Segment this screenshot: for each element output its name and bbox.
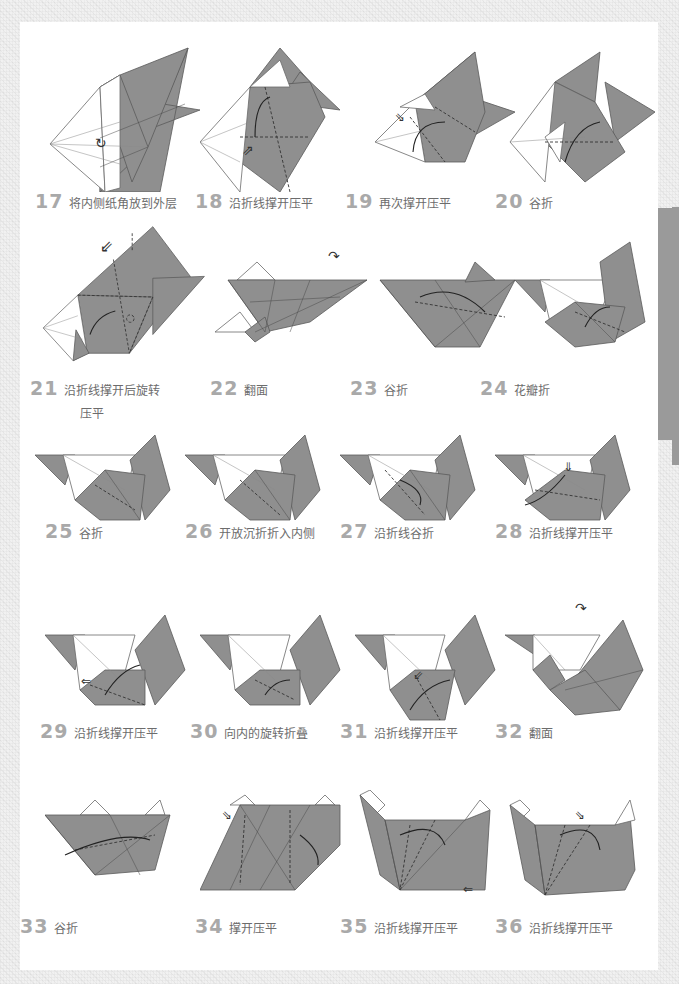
push-arrow-icon: ⇘ — [395, 110, 405, 124]
step-number: 22 — [210, 377, 238, 399]
step-number: 24 — [480, 377, 508, 399]
push-arrow-icon: ⇓ — [563, 460, 573, 474]
step-19: ⇘ 19 再次撑开压平 — [355, 42, 511, 232]
step-number: 35 — [340, 915, 368, 937]
step-27: 27 沿折线谷折 — [340, 430, 496, 620]
step-caption: 沿折线撑开压平 — [74, 724, 158, 741]
origami-diagram — [505, 42, 665, 192]
step-number: 17 — [35, 190, 63, 212]
step-number: 26 — [185, 520, 213, 542]
step-number: 19 — [345, 190, 373, 212]
push-arrow-icon: ⇘ — [575, 808, 585, 822]
step-20: 20 谷折 — [505, 42, 661, 232]
push-arrow-icon: ⇗ — [242, 142, 254, 158]
step-caption: 再次撑开压平 — [379, 194, 451, 211]
origami-diagram — [185, 430, 345, 580]
push-arrow-icon: ⇐ — [81, 674, 91, 688]
step-24: 24 花瓣折 — [515, 222, 671, 412]
origami-diagram — [200, 42, 360, 192]
step-caption: 沿折线谷折 — [374, 524, 434, 541]
step-18: ⇗ 18 沿折线撑开压平 — [200, 42, 356, 232]
step-caption: 沿折线撑开压平 — [529, 919, 613, 936]
step-caption: 向内的旋转折叠 — [224, 724, 308, 741]
step-30: 30 向内的旋转折叠 — [200, 610, 356, 800]
step-25: 25 谷折 — [35, 430, 191, 620]
step-number: 21 — [30, 377, 58, 399]
step-number: 32 — [495, 720, 523, 742]
step-caption: 谷折 — [384, 381, 408, 398]
step-caption: 沿折线撑开压平 — [374, 919, 458, 936]
rotate-inside-icon: ↻ — [95, 135, 107, 151]
step-number: 36 — [495, 915, 523, 937]
step-caption: 开放沉折折入内侧 — [219, 524, 315, 541]
push-arrow-icon: ⇙ — [413, 668, 423, 682]
origami-diagram — [210, 222, 370, 372]
step-33: 33 谷折 — [45, 790, 201, 980]
step-number: 31 — [340, 720, 368, 742]
step-31: ⇙ 31 沿折线撑开压平 — [355, 610, 511, 800]
step-caption: 将内侧纸角放到外层 — [69, 194, 177, 211]
step-17: ↻ 17 将内侧纸角放到外层 — [40, 42, 196, 232]
flip-over-icon: ↷ — [575, 600, 587, 616]
origami-diagram — [375, 222, 535, 372]
step-number: 20 — [495, 190, 523, 212]
step-number: 34 — [195, 915, 223, 937]
push-arrow-icon: ⇘ — [222, 808, 232, 822]
step-caption: 沿折线撑开压平 — [529, 524, 613, 541]
step-28: ⇓ 28 沿折线撑开压平 — [495, 430, 651, 620]
step-caption: 沿折线撑开压平 — [374, 724, 458, 741]
step-34: ⇘ 34 撑开压平 — [200, 790, 356, 980]
flip-over-icon: ↷ — [328, 248, 340, 264]
step-number: 28 — [495, 520, 523, 542]
step-caption: 谷折 — [79, 524, 103, 541]
step-caption: 沿折线撑开压平 — [229, 194, 313, 211]
step-caption: 谷折 — [54, 919, 78, 936]
step-22: ↷ 22 翻面 — [210, 222, 366, 412]
push-arrow-icon: ⇐ — [463, 882, 473, 896]
origami-diagram — [30, 222, 210, 372]
step-36: ⇘ 36 沿折线撑开压平 — [505, 790, 661, 980]
step-caption: 花瓣折 — [514, 381, 550, 398]
origami-diagram — [40, 42, 200, 192]
step-number: 27 — [340, 520, 368, 542]
step-number: 18 — [195, 190, 223, 212]
step-number: 30 — [190, 720, 218, 742]
step-caption: 翻面 — [529, 724, 553, 741]
origami-diagram — [495, 430, 655, 580]
step-number: 29 — [40, 720, 68, 742]
step-number: 33 — [20, 915, 48, 937]
step-caption: 撑开压平 — [229, 919, 277, 936]
step-32: ↷ 32 翻面 — [505, 610, 661, 800]
step-35: ⇐ 35 沿折线撑开压平 — [355, 790, 511, 980]
step-caption: 谷折 — [529, 194, 553, 211]
step-number: 23 — [350, 377, 378, 399]
push-arrow-icon: ⇙ — [100, 237, 113, 256]
origami-diagram — [515, 222, 675, 372]
step-number: 25 — [45, 520, 73, 542]
origami-diagram — [340, 430, 500, 580]
step-29: ⇐ 29 沿折线撑开压平 — [45, 610, 201, 800]
step-21: ⇙ 21 沿折线撑开后旋转 压平 — [30, 222, 186, 412]
step-26: 26 开放沉折折入内侧 — [185, 430, 341, 620]
origami-diagram — [35, 430, 195, 580]
step-caption: 沿折线撑开后旋转 — [64, 381, 160, 398]
origami-diagram — [355, 42, 515, 192]
step-caption: 翻面 — [244, 381, 268, 398]
step-caption-line2: 压平 — [80, 404, 104, 421]
